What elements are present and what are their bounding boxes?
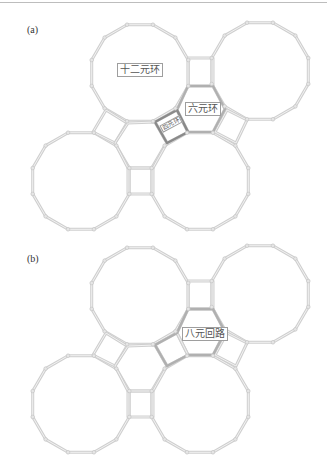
atom-node (31, 389, 35, 393)
atom-node (163, 215, 167, 219)
atom-node (294, 328, 298, 332)
atom-node (186, 58, 190, 62)
atom-node (186, 281, 190, 285)
atom-node (271, 244, 275, 248)
atom-node (245, 340, 249, 344)
atom-node (306, 56, 310, 60)
twelve-ring-2-inner (33, 133, 130, 230)
atom-node (66, 131, 70, 135)
square-ring-0 (188, 58, 213, 86)
atom-node (271, 117, 275, 121)
atom-node (44, 144, 48, 148)
square-ring-1 (93, 110, 127, 143)
atom-node (115, 215, 119, 219)
square-ring-0-inner (188, 58, 213, 86)
atom-node (163, 438, 167, 442)
atom-node (210, 305, 214, 309)
square-ring-0-inner (188, 281, 213, 309)
ring-diagram-b (0, 223, 327, 458)
atom-node (66, 450, 70, 454)
panel-b: (b) 八元回路 (0, 223, 327, 453)
atom-node (115, 438, 119, 442)
atom-node (31, 192, 35, 196)
atom-node (174, 107, 178, 111)
twelve-ring-0-inner (92, 248, 189, 345)
atom-node (92, 354, 96, 358)
twelve-ring-2 (33, 133, 130, 230)
atom-node (127, 415, 131, 419)
atom-node (306, 305, 310, 309)
atom-node (306, 82, 310, 86)
atom-node (294, 34, 298, 38)
square-ring-1-inner (93, 110, 127, 143)
atom-node (211, 450, 215, 454)
atom-node (127, 166, 131, 170)
atom-node (210, 279, 214, 283)
atom-node (174, 36, 178, 40)
atom-node (66, 354, 70, 358)
square-ring-1-inner (93, 333, 127, 366)
atom-node (151, 23, 155, 27)
atom-node (211, 131, 215, 135)
atom-node (234, 438, 238, 442)
atom-node (103, 259, 107, 263)
atom-node (246, 166, 250, 170)
atom-node (246, 415, 250, 419)
twelve-ring-label: 十二元环 (117, 63, 163, 77)
twelve-ring-2-inner (33, 356, 130, 453)
panel-label-a: (a) (27, 24, 38, 35)
panel-label-b: (b) (27, 253, 39, 264)
atom-node (44, 367, 48, 371)
atom-node (103, 330, 107, 334)
atom-node (125, 246, 129, 250)
atom-node (44, 215, 48, 219)
atom-node (306, 279, 310, 283)
atom-node (185, 450, 189, 454)
square-ring-1 (93, 333, 127, 366)
atom-node (90, 58, 94, 62)
atom-node (163, 144, 167, 148)
twelve-ring-2 (33, 356, 130, 453)
atom-node (210, 82, 214, 86)
square-ring-2 (128, 168, 153, 194)
atom-node (245, 244, 249, 248)
atom-node (103, 36, 107, 40)
atom-node (174, 330, 178, 334)
square-ring-2-inner (128, 168, 153, 194)
atom-node (150, 166, 154, 170)
atom-node (90, 307, 94, 311)
atom-node (125, 342, 129, 346)
twelve-ring-1 (212, 23, 309, 120)
eight-path-label: 八元回路 (182, 327, 228, 341)
atom-node (92, 131, 96, 135)
atom-node (186, 307, 190, 311)
atom-node (163, 367, 167, 371)
atom-node (150, 192, 154, 196)
atom-node (271, 21, 275, 25)
atom-node (90, 84, 94, 88)
atom-node (245, 117, 249, 121)
atom-node (211, 354, 215, 358)
atom-node (271, 340, 275, 344)
atom-node (294, 105, 298, 109)
square-ring-0 (188, 281, 213, 309)
atom-node (150, 415, 154, 419)
atom-node (92, 450, 96, 454)
atom-node (115, 144, 119, 148)
atom-node (246, 389, 250, 393)
atom-node (31, 166, 35, 170)
atom-node (90, 281, 94, 285)
atom-node (127, 192, 131, 196)
atom-node (185, 131, 189, 135)
square-ring-2 (128, 391, 153, 417)
atom-node (234, 367, 238, 371)
twelve-ring-0 (92, 248, 189, 345)
atom-node (223, 34, 227, 38)
atom-node (174, 259, 178, 263)
twelve-ring-1-inner (212, 23, 309, 120)
six-ring-label: 六元环 (185, 102, 221, 116)
atom-node (234, 215, 238, 219)
atom-node (185, 354, 189, 358)
ring-diagram-a (0, 0, 327, 235)
atom-node (210, 56, 214, 60)
